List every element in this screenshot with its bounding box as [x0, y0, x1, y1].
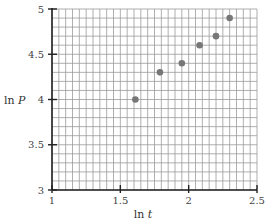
y-tick-label: 4.5 — [28, 49, 44, 60]
x-tick-label: 1 — [49, 195, 55, 206]
grid — [52, 9, 257, 190]
x-tick-label: 2 — [185, 195, 191, 206]
data-point — [157, 69, 164, 76]
data-point — [196, 42, 203, 49]
data-points — [132, 15, 233, 103]
x-axis-label: ln t — [134, 208, 153, 221]
data-point — [213, 33, 220, 40]
x-tick-label: 2.5 — [249, 195, 265, 206]
scatter-chart: 11.522.533.544.55 ln P ln t — [0, 0, 265, 224]
data-point — [132, 96, 139, 103]
y-tick-label: 3.5 — [28, 139, 44, 150]
y-axis-label: ln P — [4, 94, 26, 107]
y-tick-label: 4 — [38, 94, 44, 105]
y-tick-label: 3 — [38, 185, 44, 196]
y-tick-label: 5 — [38, 4, 44, 15]
x-tick-label: 1.5 — [112, 195, 128, 206]
data-point — [179, 60, 186, 67]
data-point — [226, 15, 233, 22]
